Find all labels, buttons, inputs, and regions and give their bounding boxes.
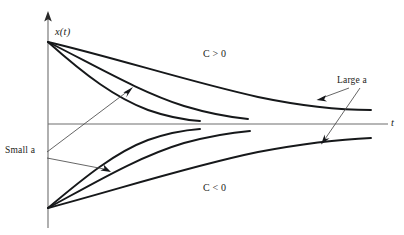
large-a-arrowhead-upper (317, 95, 328, 101)
curve-negative-slow (48, 138, 371, 208)
small-a-leaders (47, 87, 133, 172)
large-a-leaders (317, 88, 361, 145)
small-a-leader-upper (47, 91, 128, 152)
small-a-leader-lower (47, 158, 104, 169)
y-axis-label: x(t) (55, 27, 70, 38)
large-a-leader-upper (322, 88, 349, 98)
upper-region-label: C > 0 (203, 49, 226, 59)
small-a-label: Small a (5, 146, 35, 156)
large-a-arrowhead-lower (321, 134, 330, 144)
large-a-label: Large a (337, 76, 367, 86)
large-a-leader-lower (325, 88, 360, 139)
x-axis-label: t (391, 118, 394, 129)
lower-region-label: C < 0 (203, 183, 226, 193)
curve-negative-medium (48, 131, 250, 208)
small-a-arrowhead-upper (123, 87, 133, 97)
figure-container: x(t) t C > 0 C < 0 Large a Small a (0, 0, 404, 235)
